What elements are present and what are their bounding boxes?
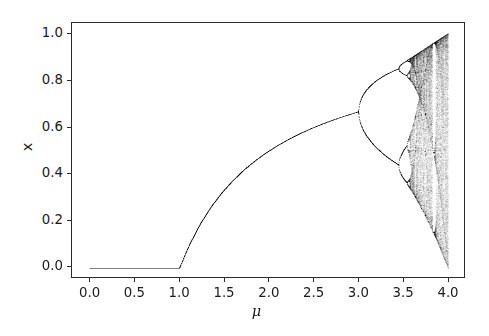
ytick-label: 1.0 [3, 25, 63, 41]
xtick-mark [179, 278, 180, 282]
ytick-mark [67, 173, 71, 174]
ytick-label: 0.0 [3, 258, 63, 274]
plot-axes-frame [71, 22, 465, 278]
ytick-mark [67, 80, 71, 81]
x-axis-label: μ [0, 303, 489, 319]
ytick-label: 0.2 [3, 212, 63, 228]
ytick-mark [67, 266, 71, 267]
ytick-label: 0.8 [3, 72, 63, 88]
ytick-label: 0.4 [3, 165, 63, 181]
xtick-mark [89, 278, 90, 282]
ytick-mark [67, 33, 71, 34]
xtick-label: 4.0 [418, 285, 478, 301]
xtick-mark [403, 278, 404, 282]
xtick-mark [224, 278, 225, 282]
bifurcation-scatter-plot [72, 23, 466, 279]
xtick-mark [448, 278, 449, 282]
xtick-mark [134, 278, 135, 282]
xtick-mark [358, 278, 359, 282]
xtick-mark [268, 278, 269, 282]
ytick-mark [67, 220, 71, 221]
xtick-mark [313, 278, 314, 282]
y-axis-label: x [19, 138, 35, 156]
ytick-mark [67, 127, 71, 128]
ytick-label: 0.6 [3, 119, 63, 135]
figure-canvas: 0.0 0.5 1.0 1.5 2.0 2.5 3.0 3.5 4.0 0.0 … [0, 0, 489, 336]
x-axis-label-text: μ [252, 303, 261, 319]
